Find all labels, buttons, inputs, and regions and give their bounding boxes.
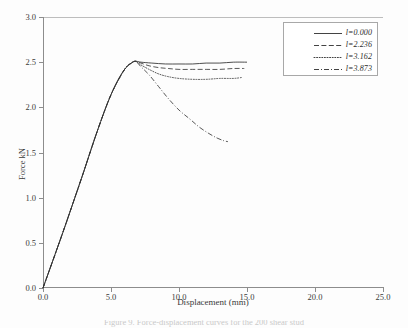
y-axis-tick-label: 0.0 [25,284,36,293]
x-axis-tick-label: 5.0 [106,293,117,302]
y-axis-tick-label: 1.0 [25,193,36,202]
legend-label: l=3.162 [346,53,372,61]
x-axis-tick-label: 25.0 [376,293,391,302]
x-axis-tick-label: 10.0 [172,293,187,302]
y-axis-tick-label: 3.0 [25,13,36,22]
legend-line-sample-dashed [313,41,343,50]
curve-l-3-873 [43,61,228,288]
y-axis-tick-label: 1.5 [25,148,36,157]
curve-l-3-162 [43,61,242,288]
legend-entry: l=3.873 [289,63,372,75]
x-axis-tick-label: 15.0 [240,293,255,302]
figure-canvas: Force kN Displacement (mm) 0.00.51.01.52… [0,0,408,328]
y-axis-tick-label: 2.5 [25,58,36,67]
legend-line-sample-dashdot [313,65,343,74]
legend-line-sample-dotted [313,53,343,62]
legend-label: l=3.873 [346,65,372,73]
x-axis-title: Displacement (mm) [43,297,383,307]
figure-caption: Figure 9. Force-displacement curves for … [0,320,408,327]
legend-entry: l=2.236 [289,39,372,51]
x-axis-tick-label: 0.0 [38,293,49,302]
y-axis-tick-label: 0.5 [25,239,36,248]
y-axis-tick-label: 2.0 [25,103,36,112]
curve-l-2-236 [43,61,244,288]
figure-caption-strip: Figure 9. Force-displacement curves for … [0,320,408,328]
curve-l-0-000 [43,61,247,288]
legend-entry: l=3.162 [289,51,372,63]
legend-line-sample-solid [313,29,343,38]
legend-label: l=2.236 [346,41,372,49]
legend-entry: l=0.000 [289,27,372,39]
x-axis-tick-label: 20.0 [308,293,323,302]
legend-label: l=0.000 [346,29,372,37]
legend-box: l=0.000l=2.236l=3.162l=3.873 [283,22,378,76]
